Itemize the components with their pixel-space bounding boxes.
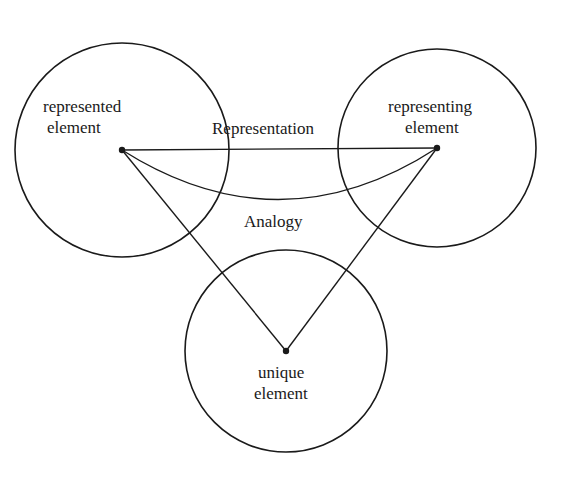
represented-element-label-line1: represented xyxy=(43,97,122,116)
analogy-arc xyxy=(122,148,437,200)
analogy-label: Analogy xyxy=(244,212,303,231)
representation-label: Representation xyxy=(212,119,314,138)
represented-element-label-line2: element xyxy=(47,118,101,137)
analogy-diagram: represented element representing element… xyxy=(0,0,578,478)
unique-element-label-line2: element xyxy=(254,384,308,403)
representing-element-label-line2: element xyxy=(405,118,459,137)
representing-element-label-line1: representing xyxy=(388,97,473,116)
represented-to-unique-edge xyxy=(122,150,286,351)
representation-edge xyxy=(122,148,437,150)
representing-to-unique-edge xyxy=(286,148,437,351)
unique-element-label-line1: unique xyxy=(258,363,304,382)
